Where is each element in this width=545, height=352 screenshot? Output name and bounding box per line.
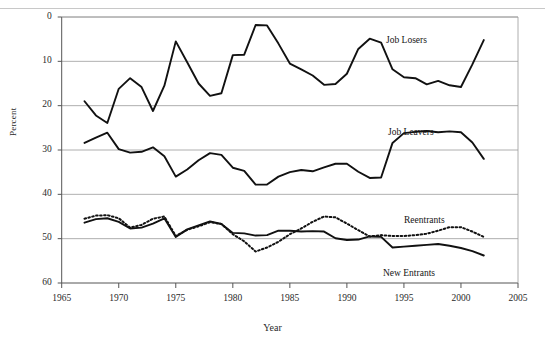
top-divider-rule [0,8,545,9]
y-tick-label-50: 10 [26,55,52,65]
y-tick-label-0: 60 [26,277,52,287]
chart-figure: Percent Year 6050403020100 1965197019751… [0,0,545,352]
x-tick-label-1985: 1985 [270,293,310,303]
x-tick-label-1980: 1980 [213,293,253,303]
y-axis-title: Percent [8,114,18,136]
y-tick-label-10: 50 [26,232,52,242]
x-tick-label-2005: 2005 [498,293,538,303]
x-tick-label-1975: 1975 [156,293,196,303]
x-tick-label-1965: 1965 [42,293,82,303]
x-tick-label-1970: 1970 [99,293,139,303]
series-label-job-losers: Job Losers [386,35,427,45]
y-tick-label-20: 40 [26,188,52,198]
series-label-job-leavers: Job Leavers [388,127,434,137]
gridlines [62,17,518,239]
series-label-reentrants: Reentrants [404,215,445,225]
x-tick-label-1990: 1990 [327,293,367,303]
y-tick-label-60: 0 [26,11,52,21]
x-axis-title: Year [0,322,545,333]
y-tick-label-30: 30 [26,144,52,154]
x-tick-label-1995: 1995 [384,293,424,303]
series-line-job-leavers [85,131,484,185]
y-tick-label-40: 20 [26,99,52,109]
x-tick-label-2000: 2000 [441,293,481,303]
series-label-new-entrants: New Entrants [383,268,435,278]
